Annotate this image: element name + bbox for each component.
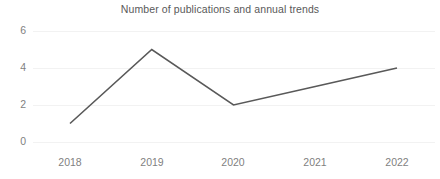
data-line-publications — [70, 50, 397, 124]
data-series-layer — [0, 0, 440, 179]
line-chart: Number of publications and annual trends… — [0, 0, 440, 179]
